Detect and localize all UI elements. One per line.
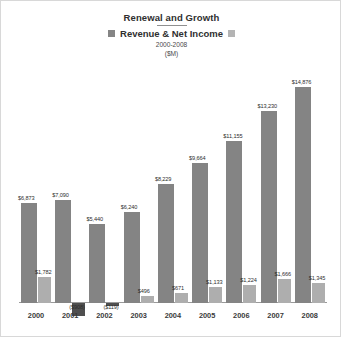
net-income-bar <box>175 293 188 303</box>
chart-legend: Revenue & Net Income <box>1 27 341 40</box>
bar-group: $6,240$496 <box>123 71 157 303</box>
revenue-value-label: $11,155 <box>223 133 242 140</box>
subtitle-units: ($M) <box>1 49 341 58</box>
legend-swatch-revenue-icon <box>108 30 115 37</box>
x-axis-tick-label: 2007 <box>259 311 293 320</box>
net-income-value-label: ($119) <box>103 304 118 311</box>
net-income-bar <box>38 277 51 303</box>
x-axis-tick-label: 2003 <box>122 311 156 320</box>
bar-group: $9,664$1,133 <box>191 71 225 303</box>
bar-group: $14,876$1,345 <box>294 71 328 303</box>
net-income-value-label: ($908) <box>69 304 85 311</box>
page-title: Renewal and Growth <box>1 12 341 24</box>
bar-group: $5,440($119) <box>88 71 122 303</box>
bar-group: $13,230$1,666 <box>260 71 294 303</box>
bar-group: $8,229$671 <box>157 71 191 303</box>
net-income-bar <box>243 285 256 303</box>
net-income-bar <box>209 287 222 303</box>
revenue-bar <box>55 200 71 303</box>
revenue-bar <box>295 87 311 303</box>
net-income-bar <box>312 283 325 303</box>
bar-group: $7,090($908) <box>54 71 88 303</box>
net-income-value-label: $1,782 <box>35 269 52 276</box>
x-axis-tick-label: 2000 <box>19 311 53 320</box>
net-income-bar <box>141 296 154 303</box>
bar-group: $11,155$1,224 <box>225 71 259 303</box>
revenue-value-label: $6,240 <box>121 204 138 211</box>
revenue-value-label: $13,230 <box>258 103 278 110</box>
net-income-value-label: $1,133 <box>206 279 223 286</box>
revenue-bar <box>21 203 37 303</box>
subtitle-period: 2000-2008 <box>1 40 341 49</box>
net-income-value-label: $1,345 <box>309 275 326 282</box>
x-axis-tick-label: 2004 <box>156 311 190 320</box>
x-axis-tick-label: 2001 <box>53 311 87 320</box>
net-income-value-label: $496 <box>138 288 150 295</box>
revenue-value-label: $6,873 <box>18 195 35 202</box>
bar-group: $6,873$1,782 <box>20 71 54 303</box>
x-axis-tick-label: 2006 <box>224 311 258 320</box>
legend-swatch-net-income-icon <box>228 30 235 37</box>
chart-header: Renewal and Growth Revenue & Net Income … <box>1 12 341 58</box>
title-divider <box>157 25 187 26</box>
revenue-value-label: $7,090 <box>52 192 69 199</box>
net-income-value-label: $1,666 <box>275 271 292 278</box>
plot-area: $6,873$1,782$7,090($908)$5,440($119)$6,2… <box>19 71 327 303</box>
x-axis-tick-label: 2005 <box>190 311 224 320</box>
net-income-value-label: $1,224 <box>240 277 257 284</box>
revenue-value-label: $14,876 <box>292 79 312 86</box>
net-income-bar <box>278 279 291 303</box>
revenue-value-label: $9,664 <box>189 155 206 162</box>
revenue-bar <box>89 224 105 303</box>
net-income-value-label: $671 <box>172 285 184 292</box>
x-axis-tick-label: 2008 <box>293 311 327 320</box>
chart-card: Renewal and Growth Revenue & Net Income … <box>0 0 341 337</box>
x-axis: 200020012002200320042005200620072008 <box>19 311 327 325</box>
revenue-value-label: $5,440 <box>86 216 103 223</box>
x-axis-tick-label: 2002 <box>87 311 121 320</box>
legend-label: Revenue & Net Income <box>120 27 223 40</box>
revenue-value-label: $8,229 <box>155 176 172 183</box>
